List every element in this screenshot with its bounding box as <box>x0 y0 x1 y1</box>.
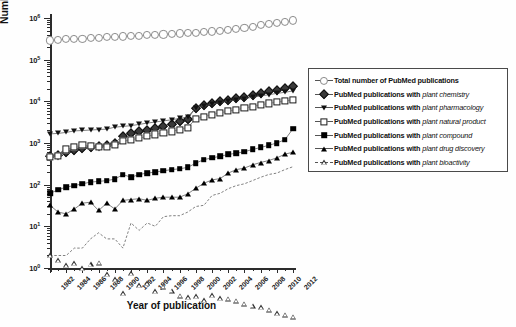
x-tick <box>277 268 278 273</box>
x-tick-minor <box>236 268 237 271</box>
legend-label: PubMed publications with plant drug disc… <box>334 144 485 153</box>
data-point <box>120 291 126 296</box>
data-point <box>290 314 296 319</box>
data-point <box>177 293 183 298</box>
legend-marker-open-up-triangle-icon <box>314 156 334 168</box>
y-tick-label: 101 <box>29 221 40 232</box>
y-tick-label: 100 <box>29 263 40 274</box>
y-tick-label: 104 <box>29 96 40 107</box>
chart-legend: Total number of PubMed publicationsPubMe… <box>308 68 508 172</box>
x-tick-label: 2006 <box>254 275 270 291</box>
legend-item[interactable]: PubMed publications with plant compound <box>314 128 503 142</box>
legend-search-term: plant chemistry <box>422 90 469 99</box>
x-tick-minor <box>139 268 140 271</box>
y-tick-label: 103 <box>29 138 40 149</box>
x-tick-minor <box>74 268 75 271</box>
plot-area: 100101102103104105106 198219841986198819… <box>50 18 293 268</box>
y-tick-label: 105 <box>29 54 40 65</box>
legend-marker-open-circle-icon <box>314 75 334 87</box>
legend-item[interactable]: PubMed publications with plant natural p… <box>314 115 503 129</box>
x-tick <box>115 268 116 273</box>
x-tick-label: 1984 <box>76 275 92 291</box>
x-tick-label: 2000 <box>205 275 221 291</box>
y-axis-title: Number of PubMed publications <box>0 0 10 40</box>
x-tick-minor <box>91 268 92 271</box>
data-point <box>209 293 215 298</box>
legend-label: PubMed publications with plant bioactivi… <box>334 158 470 167</box>
x-tick-label: 2004 <box>238 275 254 291</box>
legend-search-term: plant bioactivity <box>422 158 469 167</box>
x-axis-title: Year of publication <box>50 300 293 311</box>
x-tick-minor <box>58 268 59 271</box>
x-tick-minor <box>155 268 156 271</box>
x-tick <box>131 268 132 273</box>
data-point <box>274 311 280 316</box>
legend-item[interactable]: PubMed publications with plant bioactivi… <box>314 156 503 170</box>
x-tick-label: 2002 <box>222 275 238 291</box>
x-tick-minor <box>107 268 108 271</box>
x-tick-minor <box>220 268 221 271</box>
legend-item[interactable]: PubMed publications with plant drug disc… <box>314 142 503 156</box>
y-tick-label: 106 <box>29 13 40 24</box>
x-tick <box>180 268 181 273</box>
x-tick-label: 2008 <box>270 275 286 291</box>
data-point <box>169 288 175 293</box>
x-tick-label: 1986 <box>92 275 108 291</box>
legend-marker-filled-down-triangle-icon <box>314 102 334 114</box>
x-tick <box>99 268 100 273</box>
legend-search-term: plant natural product <box>422 117 485 126</box>
x-tick <box>196 268 197 273</box>
legend-label: PubMed publications with plant pharmacol… <box>334 103 483 112</box>
x-tick <box>66 268 67 273</box>
x-tick-minor <box>172 268 173 271</box>
y-tick-label: 102 <box>29 179 40 190</box>
x-tick-label: 1994 <box>157 275 173 291</box>
legend-marker-filled-up-triangle-icon <box>314 143 334 155</box>
x-tick-minor <box>253 268 254 271</box>
data-point <box>282 312 288 317</box>
x-tick-label: 1988 <box>108 275 124 291</box>
legend-marker-open-square-icon <box>314 116 334 128</box>
x-tick-label: 2012 <box>303 275 319 291</box>
x-tick-minor <box>123 268 124 271</box>
legend-marker-filled-diamond-icon <box>314 88 334 100</box>
series-line <box>50 18 293 268</box>
x-tick-label: 2010 <box>286 275 302 291</box>
legend-search-term: plant drug discovery <box>422 144 484 153</box>
data-point <box>193 294 199 299</box>
legend-item[interactable]: PubMed publications with plant pharmacol… <box>314 101 503 115</box>
x-tick-label: 1996 <box>173 275 189 291</box>
x-tick-minor <box>204 268 205 271</box>
legend-marker-filled-square-icon <box>314 129 334 141</box>
x-tick <box>147 268 148 273</box>
x-tick-label: 1998 <box>189 275 205 291</box>
legend-item[interactable]: PubMed publications with plant chemistry <box>314 88 503 102</box>
legend-label: PubMed publications with plant compound <box>334 131 472 140</box>
x-tick-label: 1982 <box>60 275 76 291</box>
x-tick-minor <box>188 268 189 271</box>
x-tick <box>293 268 294 273</box>
x-tick <box>82 268 83 273</box>
legend-label: PubMed publications with plant chemistry <box>334 90 469 99</box>
legend-label: Total number of PubMed publications <box>334 76 459 85</box>
x-tick <box>261 268 262 273</box>
x-tick-label: 1990 <box>124 275 140 291</box>
x-tick <box>163 268 164 273</box>
x-tick <box>50 268 51 273</box>
data-series-layer <box>50 18 293 173</box>
x-tick <box>228 268 229 273</box>
chart-figure: Number of PubMed publications Year of pu… <box>0 0 516 327</box>
x-tick-minor <box>269 268 270 271</box>
x-tick-label: 1992 <box>141 275 157 291</box>
data-point <box>152 289 158 294</box>
x-tick <box>212 268 213 273</box>
legend-search-term: plant pharmacology <box>422 103 483 112</box>
legend-item[interactable]: Total number of PubMed publications <box>314 74 503 88</box>
data-point <box>185 295 191 300</box>
legend-label: PubMed publications with plant natural p… <box>334 117 486 126</box>
legend-search-term: plant compound <box>422 131 472 140</box>
x-tick <box>244 268 245 273</box>
x-tick-minor <box>285 268 286 271</box>
